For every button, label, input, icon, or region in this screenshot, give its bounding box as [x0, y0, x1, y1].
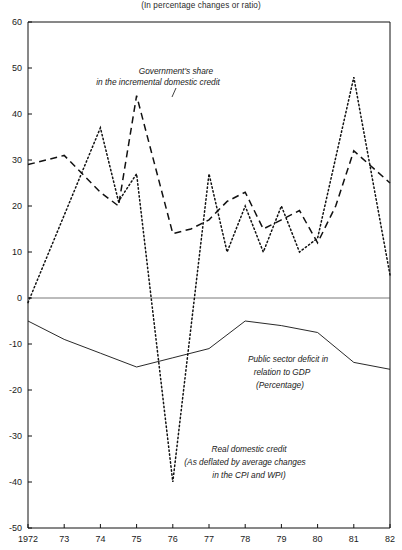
line-chart-canvas: 6050403020100-10-20-30-40-50 19727374757… [0, 0, 402, 550]
y-tick-label: 60 [12, 17, 22, 27]
y-tick-label: 10 [12, 247, 22, 257]
y-tick-label: 20 [12, 201, 22, 211]
x-tick-label: 73 [59, 534, 69, 544]
y-tick-label: -50 [9, 523, 22, 533]
x-tick-label: 82 [385, 534, 395, 544]
annotation-gov-line2: in the incremental domestic credit [96, 77, 220, 87]
y-tick-label: 30 [12, 155, 22, 165]
annotation-credit-line2: (As deflated by average changes [184, 457, 305, 467]
annotation-real-credit: Real domestic credit (As deflated by ave… [184, 444, 305, 480]
y-tick-label: -10 [9, 339, 22, 349]
y-tick-label: -40 [9, 477, 22, 487]
x-tick-label: 79 [276, 534, 286, 544]
data-series-group [28, 77, 390, 482]
annotation-gov-line1: Government's share [139, 66, 214, 76]
y-tick-label: -20 [9, 385, 22, 395]
y-tick-label: 0 [17, 293, 22, 303]
series-line-1 [28, 77, 390, 482]
chart-subtitle: (In percentage changes or ratio) [0, 1, 402, 10]
annotation-public-deficit: Public sector deficit in relation to GDP… [248, 354, 329, 390]
annotation-deficit-line2: relation to GDP [254, 367, 311, 377]
x-tick-label: 1972 [18, 534, 38, 544]
x-axis: 197273747576777879808182 [18, 524, 395, 544]
annotation-credit-line3: in the CPI and WPI) [212, 470, 286, 480]
y-axis: 6050403020100-10-20-30-40-50 [9, 17, 32, 533]
frame-border [28, 22, 390, 528]
x-tick-label: 81 [349, 534, 359, 544]
y-tick-label: -30 [9, 431, 22, 441]
series-line-0 [28, 96, 390, 243]
x-tick-label: 76 [168, 534, 178, 544]
annotation-government-share: Government's share in the incremental do… [96, 66, 220, 87]
x-tick-label: 78 [240, 534, 250, 544]
plot-frame [28, 22, 390, 528]
x-tick-label: 77 [204, 534, 214, 544]
annotation-deficit-line1: Public sector deficit in [248, 354, 329, 364]
series-line-2 [28, 321, 390, 369]
x-tick-label: 80 [313, 534, 323, 544]
y-tick-label: 40 [12, 109, 22, 119]
chart-figure: (In percentage changes or ratio) 6050403… [0, 0, 402, 550]
x-tick-label: 75 [132, 534, 142, 544]
annotation-leader-gov [172, 88, 176, 97]
x-tick-label: 74 [95, 534, 105, 544]
y-tick-label: 50 [12, 63, 22, 73]
annotation-deficit-line3: (Percentage) [256, 380, 304, 390]
annotation-credit-line1: Real domestic credit [211, 444, 287, 454]
